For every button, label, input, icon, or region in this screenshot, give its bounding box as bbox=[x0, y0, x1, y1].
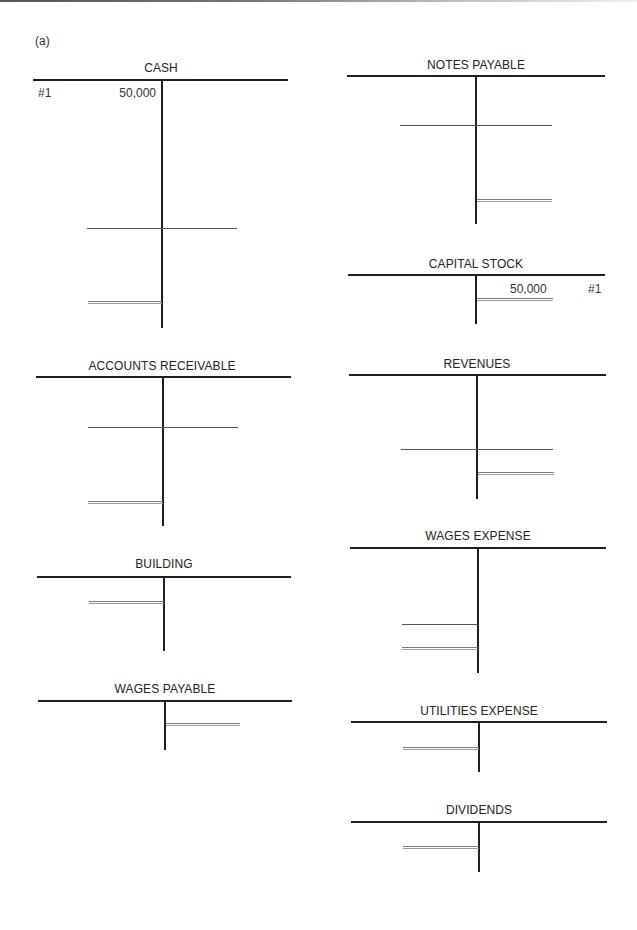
account-title: CASH bbox=[144, 61, 178, 75]
account-title: NOTES PAYABLE bbox=[427, 58, 525, 72]
t-account-stem bbox=[477, 547, 479, 673]
account-title: REVENUES bbox=[444, 357, 511, 371]
balance-double-rule bbox=[403, 846, 479, 849]
balance-double-rule bbox=[89, 601, 164, 604]
account-title: ACCOUNTS RECEIVABLE bbox=[88, 359, 235, 373]
account-title: UTILITIES EXPENSE bbox=[420, 704, 538, 718]
subtotal-rule bbox=[401, 449, 553, 450]
subtotal-rule bbox=[400, 125, 552, 126]
account-title: CAPITAL STOCK bbox=[429, 257, 523, 271]
balance-double-rule bbox=[477, 298, 553, 301]
page-top-edge bbox=[0, 0, 637, 2]
balance-double-rule bbox=[88, 301, 162, 304]
balance-double-rule bbox=[403, 747, 479, 750]
balance-double-rule bbox=[477, 199, 552, 202]
subtotal-rule bbox=[87, 228, 237, 229]
t-account-stem bbox=[476, 374, 478, 499]
subtotal-rule bbox=[402, 624, 478, 625]
balance-double-rule bbox=[88, 501, 163, 504]
account-title: WAGES PAYABLE bbox=[115, 682, 216, 696]
account-title: WAGES EXPENSE bbox=[425, 529, 531, 543]
account-title: DIVIDENDS bbox=[446, 803, 512, 817]
balance-double-rule bbox=[166, 723, 240, 726]
debit-amount: 50,000 bbox=[96, 86, 156, 100]
credit-ref: #1 bbox=[588, 282, 601, 296]
debit-ref: #1 bbox=[38, 86, 51, 100]
subtotal-rule bbox=[88, 427, 238, 428]
part-label: (a) bbox=[35, 34, 50, 48]
account-title: BUILDING bbox=[135, 557, 192, 571]
balance-double-rule bbox=[402, 647, 478, 650]
balance-double-rule bbox=[478, 472, 554, 475]
credit-amount: 50,000 bbox=[510, 282, 547, 296]
t-account-stem bbox=[161, 79, 163, 328]
t-account-stem bbox=[163, 576, 165, 651]
